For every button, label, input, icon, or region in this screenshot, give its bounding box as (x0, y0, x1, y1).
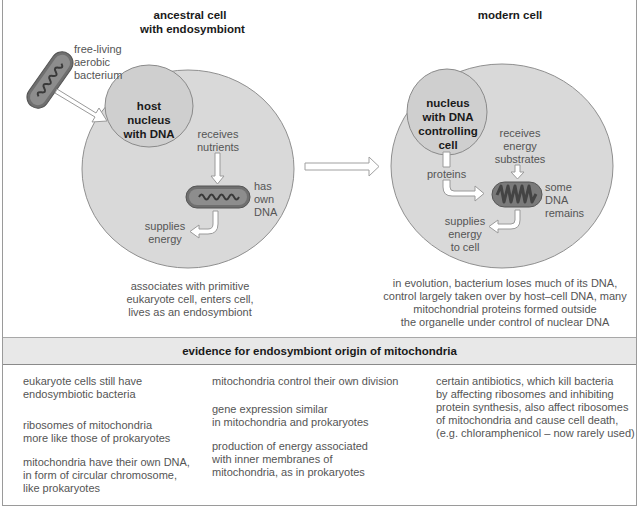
entry-arrow-icon (55, 89, 107, 122)
evidence-item: certain antibiotics, which kill bacteria… (436, 375, 635, 440)
ancestral-caption: associates with primitive eukaryote cell… (110, 280, 270, 319)
proteins-label: proteins (427, 168, 466, 181)
evidence-title: evidence for endosymbiont origin of mito… (3, 345, 636, 357)
evidence-item: production of energy associated with inn… (212, 440, 368, 479)
supplies-energy-label: supplies energy (140, 220, 190, 246)
endosymbiont-bacterium-icon (186, 186, 250, 208)
has-own-dna-label: has own DNA (254, 180, 277, 219)
evidence-item: ribosomes of mitochondria more like thos… (23, 419, 170, 445)
evidence-item: mitochondria have their own DNA, in form… (23, 456, 190, 495)
free-living-bacterium-label: free-living aerobic bacterium (74, 43, 122, 82)
host-nucleus-label: host nucleus with DNA (114, 99, 184, 141)
receives-nutrients-label: receives nutrients (192, 128, 244, 154)
evidence-item: eukaryote cells still have endosymbiotic… (23, 375, 142, 401)
mitochondrion-icon (492, 182, 542, 207)
supplies-energy-to-cell-label: supplies energy to cell (442, 215, 488, 254)
modern-nucleus-label: nucleus with DNA controlling cell (410, 96, 486, 152)
some-dna-remains-label: some DNA remains (545, 181, 584, 220)
evolution-arrow-icon (305, 157, 379, 176)
evidence-header-band: evidence for endosymbiont origin of mito… (3, 337, 636, 365)
free-living-bacterium-icon (23, 47, 78, 112)
evidence-item: mitochondria control their own division (212, 375, 398, 388)
evidence-item: gene expression similar in mitochondria … (212, 403, 369, 429)
modern-caption: in evolution, bacterium loses much of it… (370, 277, 640, 329)
ancestral-cell-title: ancestral cell with endosymbiont (140, 8, 240, 36)
receives-substrates-label: receives energy substrates (490, 127, 550, 166)
modern-cell-title: modern cell (460, 8, 560, 22)
